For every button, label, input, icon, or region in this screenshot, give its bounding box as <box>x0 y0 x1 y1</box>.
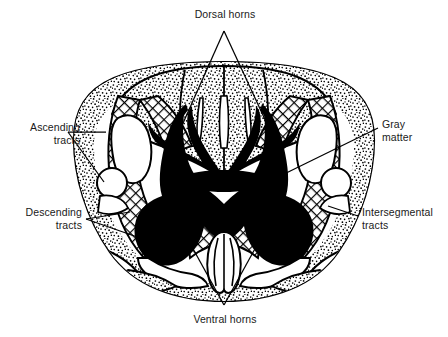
label-ventral-horns: Ventral horns <box>155 313 295 326</box>
spinal-cord-diagram <box>0 0 448 337</box>
label-gray-matter-line2: matter <box>382 131 446 144</box>
label-intersegmental-tracts: Intersegmental tracts <box>362 206 448 231</box>
label-intersegmental-tracts-line1: Intersegmental <box>362 206 448 219</box>
label-descending-tracts: Descending tracts <box>2 206 82 231</box>
label-descending-tracts-line1: Descending <box>2 206 82 219</box>
label-dorsal-horns-text: Dorsal horns <box>195 8 256 20</box>
label-ascending-tracts-line2: tracts <box>2 134 80 147</box>
label-dorsal-horns: Dorsal horns <box>155 8 295 21</box>
label-intersegmental-tracts-line2: tracts <box>362 219 448 232</box>
figure-canvas: Dorsal horns Ventral horns Ascending tra… <box>0 0 448 337</box>
label-ascending-tracts: Ascending tracts <box>2 121 80 146</box>
label-gray-matter: Gray matter <box>382 118 446 143</box>
label-descending-tracts-line2: tracts <box>2 219 82 232</box>
label-ascending-tracts-line1: Ascending <box>2 121 80 134</box>
label-ventral-horns-text: Ventral horns <box>193 313 256 325</box>
label-gray-matter-line1: Gray <box>382 118 446 131</box>
